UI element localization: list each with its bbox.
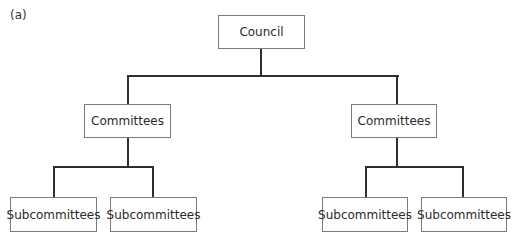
subcommittee-box: Subcommittees (10, 197, 97, 232)
subcommittee-label: Subcommittees (107, 208, 201, 222)
connector-council-down (260, 49, 262, 76)
subcommittee-label: Subcommittees (417, 208, 511, 222)
subcommittee-box: Subcommittees (110, 197, 197, 232)
council-label: Council (239, 25, 283, 39)
subcommittee-label: Subcommittees (318, 208, 412, 222)
connector-right-committee-down (396, 138, 398, 168)
connector-committee-right-up (396, 75, 398, 104)
council-box: Council (218, 15, 305, 49)
connector-right-sub2-up (462, 166, 464, 197)
connector-left-subs-horizontal (53, 166, 154, 168)
subcommittee-box: Subcommittees (421, 197, 507, 232)
connector-left-committee-down (127, 138, 129, 168)
connector-committees-horizontal (127, 75, 399, 77)
connector-committee-left-up (127, 75, 129, 104)
connector-right-subs-horizontal (365, 166, 464, 168)
connector-right-sub1-up (365, 166, 367, 197)
connector-left-sub1-up (53, 166, 55, 197)
connector-left-sub2-up (152, 166, 154, 197)
committee-label: Committees (358, 114, 431, 128)
committee-box-right: Committees (351, 104, 437, 138)
subcommittee-box: Subcommittees (322, 197, 408, 232)
panel-label: (a) (10, 8, 27, 22)
subcommittee-label: Subcommittees (7, 208, 101, 222)
committee-box-left: Committees (84, 104, 171, 138)
committee-label: Committees (91, 114, 164, 128)
